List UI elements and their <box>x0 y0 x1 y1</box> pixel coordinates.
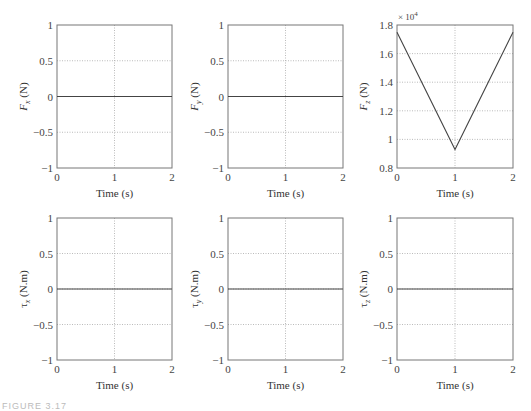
x-tick-label: 2 <box>510 363 516 375</box>
y-axis-label: τz (N.m) <box>357 270 372 307</box>
y-tick-label: −1 <box>381 354 393 366</box>
figure-caption: FIGURE 3.17 <box>2 401 67 411</box>
x-tick-label: 1 <box>452 363 458 375</box>
y-tick-label: 1 <box>388 212 394 224</box>
x-axis-label: Time (s) <box>436 379 474 392</box>
y-tick-label: 0 <box>388 283 394 295</box>
y-tick-label: 0.5 <box>379 248 393 260</box>
y-tick-label: −0.5 <box>373 319 393 331</box>
plot-tz-svg: 10.50−0.5−1012Time (s)τz (N.m) <box>0 0 531 411</box>
x-tick-label: 0 <box>394 363 400 375</box>
